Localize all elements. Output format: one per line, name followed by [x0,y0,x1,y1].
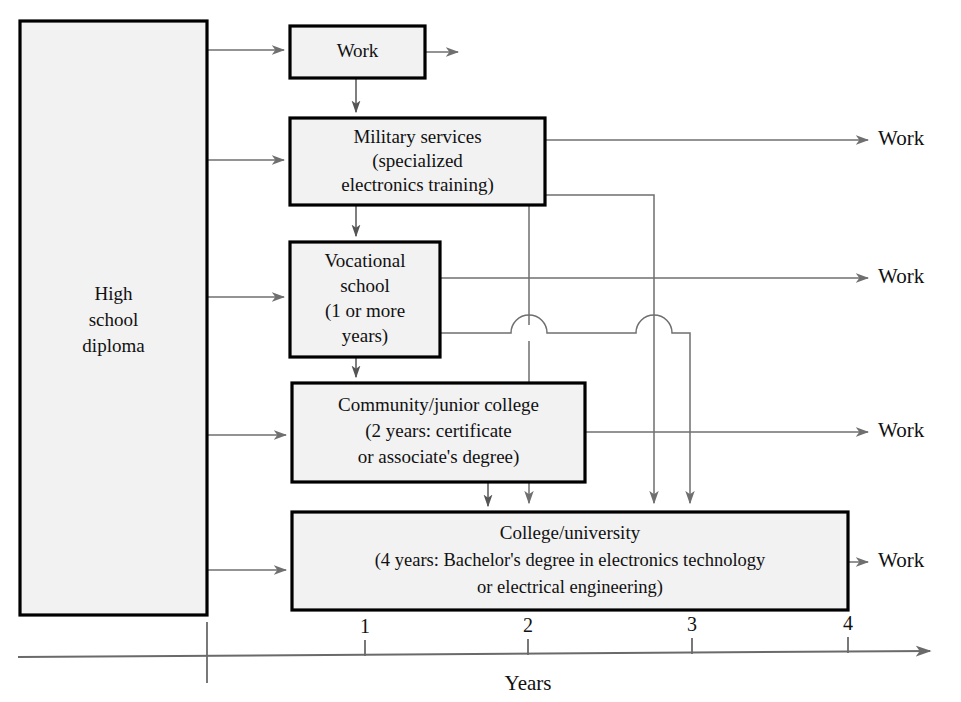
high-school-line-1: High [95,283,134,304]
work-outcome-3: Work [878,418,925,442]
axis-tick-label-1: 1 [360,615,370,637]
axis-baseline [18,651,930,657]
work-outcome-1: Work [878,126,925,150]
military-line-2: (specialized [372,150,463,172]
career-path-diagram: High school diploma Work Military servic… [0,0,961,702]
military-line-3: electronics training) [341,174,493,196]
work-outcome-4: Work [878,548,925,572]
community-line-3: or associate's degree) [358,446,520,468]
axis-tick-label-4: 4 [843,612,853,634]
college-line-2: (4 years: Bachelor's degree in electroni… [375,550,766,571]
highschool-outgoing-connectors [207,50,286,570]
node-college-university[interactable]: College/university (4 years: Bachelor's … [292,512,848,610]
work-outcome-2: Work [878,264,925,288]
military-line-1: Military services [353,126,481,147]
work-label: Work [337,40,379,61]
community-line-1: Community/junior college [338,394,539,415]
work-outcome-labels: Work Work Work Work [878,126,925,572]
vocational-line-3: (1 or more [325,300,405,322]
node-vocational-school[interactable]: Vocational school (1 or more years) [290,242,440,357]
high-school-line-2: school [89,309,139,330]
high-school-line-3: diploma [82,335,145,356]
college-line-3: or electrical engineering) [477,577,663,598]
diagram-canvas: High school diploma Work Military servic… [0,0,961,702]
vocational-line-4: years) [342,325,388,347]
vocational-line-2: school [340,275,390,296]
node-work[interactable]: Work [290,26,425,78]
college-line-1: College/university [500,522,641,543]
years-axis: 1 2 3 4 Years [18,612,930,695]
node-high-school-diploma[interactable]: High school diploma [20,21,207,615]
axis-title-years: Years [505,671,552,695]
vocational-line-1: Vocational [325,250,406,271]
axis-tick-label-3: 3 [687,613,697,635]
axis-tick-label-2: 2 [523,614,533,636]
node-community-junior-college[interactable]: Community/junior college (2 years: certi… [292,383,585,482]
node-military-services[interactable]: Military services (specialized electroni… [290,118,545,205]
community-line-2: (2 years: certificate [365,420,512,442]
